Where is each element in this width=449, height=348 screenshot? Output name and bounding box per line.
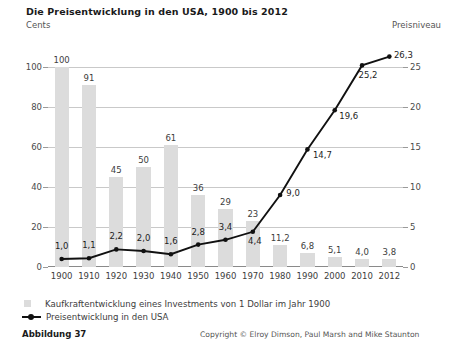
x-axis-tick-label: 2012 [379,271,401,281]
line-value-label: 19,6 [339,111,358,121]
line-point-marker [387,54,392,59]
y-axis-right-tick-label: 20 [410,102,421,112]
y-axis-left-tick-label: 80 [31,102,42,112]
line-marker-icon [22,312,41,322]
y-axis-left-tick-label: 100 [26,62,42,72]
bar-swatch-icon [24,300,31,307]
line-value-label: 9,0 [286,188,300,198]
y-axis-right-tick-mark [403,227,408,228]
y-axis-left-label: Cents [26,20,50,30]
y-axis-right-tick-mark [403,67,408,68]
bar-value-label: 100 [54,55,70,65]
line-point-marker [223,238,228,243]
line-value-label: 1,6 [164,236,178,246]
line-value-label: 1,1 [82,240,96,250]
line-point-marker [141,249,146,254]
x-axis-tick-label: 1930 [133,271,155,281]
line-value-label: 14,7 [313,150,332,160]
line-point-marker [278,193,283,198]
line-point-marker [59,257,64,262]
y-axis-right-tick-mark [403,107,408,108]
y-axis-right-tick-label: 15 [410,142,421,152]
x-axis-tick-label: 1960 [215,271,237,281]
y-axis-right-tick-mark [403,267,408,268]
legend-item-bars: Kaufkraftentwicklung eines Investments v… [22,297,330,310]
line-value-label: 1,0 [55,241,69,251]
line-value-label: 3,4 [219,222,233,232]
y-axis-right-tick-label: 25 [410,62,421,72]
plot-area: 0204060801000510152025100190091191045192… [48,67,403,267]
y-axis-right-tick-label: 5 [410,222,415,232]
line-value-label: 25,2 [359,70,378,80]
x-axis-tick-label: 1910 [78,271,100,281]
line-point-marker [360,63,365,68]
y-axis-left-tick-label: 0 [37,262,42,272]
figure-caption: Abbildung 37 [22,329,86,339]
line-value-label: 2,0 [137,233,151,243]
x-axis-tick-label: 1980 [269,271,291,281]
y-axis-left-tick-label: 20 [31,222,42,232]
line-point-marker [87,256,92,261]
line-value-label: 2,8 [191,227,205,237]
x-axis-tick-label: 2000 [324,271,346,281]
chart-legend: Kaufkraftentwicklung eines Investments v… [22,297,330,323]
legend-label-line: Preisentwicklung in den USA [46,312,169,322]
legend-label-bars: Kaufkraftentwicklung eines Investments v… [45,299,330,309]
line-point-marker [114,247,119,252]
line-value-label: 4,4 [248,236,262,246]
legend-item-line: Preisentwicklung in den USA [22,310,330,323]
y-axis-right-tick-mark [403,187,408,188]
x-axis-tick-label: 1990 [297,271,319,281]
line-point-marker [305,147,310,152]
line-point-marker [169,252,174,257]
y-axis-left-tick-label: 40 [31,182,42,192]
line-value-label: 2,2 [110,231,124,241]
line-point-marker [251,230,256,235]
y-axis-left-tick-label: 60 [31,142,42,152]
copyright-notice: Copyright © Elroy Dimson, Paul Marsh and… [200,330,419,339]
y-axis-right-label: Preisniveau [392,20,441,30]
y-axis-right-tick-label: 0 [410,262,415,272]
line-series [48,67,403,267]
line-point-marker [196,242,201,247]
x-axis-tick-label: 1920 [105,271,127,281]
line-point-marker [332,108,337,113]
y-axis-right-tick-label: 10 [410,182,421,192]
x-axis-tick-label: 1900 [51,271,73,281]
chart-title: Die Preisentwicklung in den USA, 1900 bi… [26,6,288,17]
line-value-label: 26,3 [394,50,413,60]
x-axis-tick-label: 1940 [160,271,182,281]
y-axis-left-tick-mark [43,267,48,268]
x-axis-tick-label: 2010 [351,271,373,281]
x-axis-tick-label: 1950 [187,271,209,281]
x-axis-tick-label: 1970 [242,271,264,281]
chart-figure: Die Preisentwicklung in den USA, 1900 bi… [0,0,449,348]
y-axis-right-tick-mark [403,147,408,148]
